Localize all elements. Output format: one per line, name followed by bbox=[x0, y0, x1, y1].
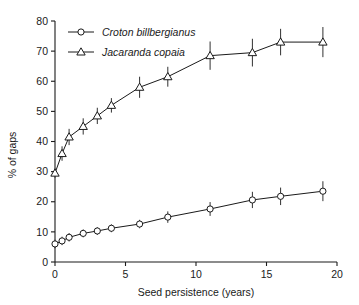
data-point-circle bbox=[59, 238, 65, 244]
data-point-circle bbox=[278, 193, 284, 199]
data-point-circle bbox=[207, 206, 213, 212]
data-point-circle bbox=[108, 225, 114, 231]
y-tick-label: 40 bbox=[36, 135, 48, 147]
chart-figure: 01020304050607080 05101520 Croton billbe… bbox=[0, 0, 359, 305]
line-chart: 01020304050607080 05101520 Croton billbe… bbox=[0, 0, 359, 305]
y-tick-label: 80 bbox=[36, 15, 48, 27]
legend-marker-circle bbox=[78, 29, 84, 35]
y-tick-label: 60 bbox=[36, 75, 48, 87]
data-point-circle bbox=[320, 188, 326, 194]
x-tick-label: 0 bbox=[52, 268, 58, 280]
x-tick-label: 5 bbox=[123, 268, 129, 280]
x-tick-label: 10 bbox=[190, 268, 202, 280]
data-point-circle bbox=[249, 197, 255, 203]
data-point-circle bbox=[137, 221, 143, 227]
x-tick-label: 15 bbox=[261, 268, 273, 280]
y-tick-label: 50 bbox=[36, 105, 48, 117]
x-tick-label: 20 bbox=[331, 268, 343, 280]
legend-label: Jacaranda copaia bbox=[101, 46, 185, 58]
y-tick-label: 70 bbox=[36, 45, 48, 57]
data-point-circle bbox=[94, 228, 100, 234]
data-point-circle bbox=[66, 234, 72, 240]
y-tick-label: 0 bbox=[42, 256, 48, 268]
legend-label: Croton billbergianus bbox=[102, 26, 196, 38]
y-tick-label: 30 bbox=[36, 165, 48, 177]
y-tick-label: 20 bbox=[36, 195, 48, 207]
y-tick-label: 10 bbox=[36, 226, 48, 238]
data-point-circle bbox=[80, 230, 86, 236]
data-point-circle bbox=[52, 241, 58, 247]
data-point-circle bbox=[165, 214, 171, 220]
x-axis-title: Seed persistence (years) bbox=[138, 286, 255, 298]
y-axis-title: % of gaps bbox=[6, 132, 18, 179]
